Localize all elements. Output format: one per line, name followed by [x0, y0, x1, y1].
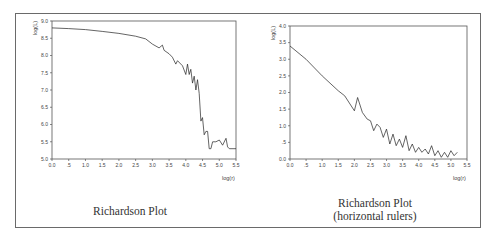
x-tick-label: 5.5 [233, 162, 240, 168]
y-tick-label: 3.0 [279, 56, 286, 62]
left-plot-caption: Richardson Plot [60, 205, 200, 218]
plot-2: 0.0.51.01.52.02.53.03.54.04.55.05.50.0.5… [270, 23, 471, 181]
y-tick-label: 2.0 [279, 89, 286, 95]
x-tick-label: 0.0 [287, 162, 294, 168]
x-tick-label: 5.0 [216, 162, 223, 168]
right-plot-caption-line2: (horizontal rulers) [305, 210, 445, 223]
x-tick-label: 1.5 [335, 162, 342, 168]
y-axis-label: log(L) [32, 21, 38, 35]
y-tick-label: .5 [282, 139, 286, 145]
x-tick-label: 2.0 [351, 162, 358, 168]
x-tick-label: 4.5 [199, 162, 206, 168]
x-tick-label: 4.5 [431, 162, 438, 168]
x-axis-label: log(r) [222, 175, 235, 181]
y-tick-label: 0.0 [279, 156, 286, 162]
data-line [290, 46, 457, 157]
x-tick-label: 2.5 [367, 162, 374, 168]
x-tick-label: 1.0 [319, 162, 326, 168]
x-axis-label: log(r) [453, 175, 466, 181]
y-tick-label: 8.0 [41, 52, 48, 58]
y-tick-label: 4.0 [279, 23, 286, 29]
x-tick-label: 4.0 [415, 162, 422, 168]
y-tick-label: 3.5 [279, 39, 286, 45]
y-tick-label: 1.5 [279, 106, 286, 112]
plot-1: 0.0.51.01.52.02.53.03.54.04.55.05.55.05.… [32, 18, 240, 181]
x-tick-label: 3.0 [149, 162, 156, 168]
y-tick-label: 6.5 [41, 104, 48, 110]
x-tick-label: 5.0 [447, 162, 454, 168]
x-tick-label: .5 [67, 162, 71, 168]
x-tick-label: 2.5 [132, 162, 139, 168]
data-line [52, 28, 236, 149]
x-tick-label: 3.5 [166, 162, 173, 168]
x-tick-label: 5.5 [464, 162, 471, 168]
y-tick-label: 6.0 [41, 121, 48, 127]
y-tick-label: 8.5 [41, 35, 48, 41]
x-tick-label: 0.0 [49, 162, 56, 168]
y-tick-label: 7.0 [41, 87, 48, 93]
x-tick-label: .5 [304, 162, 308, 168]
x-tick-label: 2.0 [115, 162, 122, 168]
right-plot-caption-line1: Richardson Plot [305, 197, 445, 210]
y-axis-label: log(L) [270, 26, 276, 40]
x-tick-label: 1.0 [82, 162, 89, 168]
x-tick-label: 4.0 [182, 162, 189, 168]
x-tick-label: 3.5 [399, 162, 406, 168]
y-tick-label: 1.0 [279, 123, 286, 129]
y-tick-label: 5.5 [41, 139, 48, 145]
plot-area [290, 26, 467, 159]
y-tick-label: 9.0 [41, 18, 48, 24]
x-tick-label: 3.0 [383, 162, 390, 168]
x-tick-label: 1.5 [99, 162, 106, 168]
y-tick-label: 2.5 [279, 73, 286, 79]
y-tick-label: 5.0 [41, 156, 48, 162]
y-tick-label: 7.5 [41, 70, 48, 76]
